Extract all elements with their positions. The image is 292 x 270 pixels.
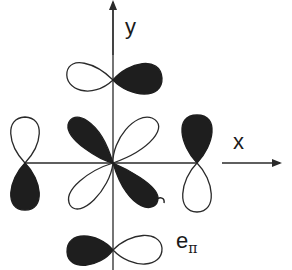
left-top-lobe: [11, 117, 40, 163]
orbital-diagram: y x eπ: [0, 0, 292, 270]
symmetry-label-main: e: [176, 228, 188, 253]
bottom-right-lobe: [113, 235, 162, 264]
y-axis-label: y: [125, 14, 136, 40]
top-right-lobe: [113, 63, 162, 94]
d-lower-right-lobe: [113, 163, 158, 207]
bottom-left-lobe: [67, 236, 113, 265]
right-top-lobe: [182, 115, 212, 163]
top-p-orbital: [67, 63, 162, 94]
symmetry-label: eπ: [176, 228, 197, 256]
bottom-p-orbital: [67, 235, 162, 265]
d-lower-left-lobe: [69, 163, 113, 209]
right-bottom-lobe: [183, 163, 212, 212]
d-upper-left-lobe: [68, 117, 113, 163]
d-upper-right-lobe: [113, 117, 159, 163]
symmetry-label-subscript: π: [188, 240, 197, 256]
left-bottom-lobe: [11, 163, 40, 210]
top-left-lobe: [67, 63, 113, 91]
x-axis-label: x: [233, 129, 244, 155]
orbital-diagram-svg: [0, 0, 292, 270]
